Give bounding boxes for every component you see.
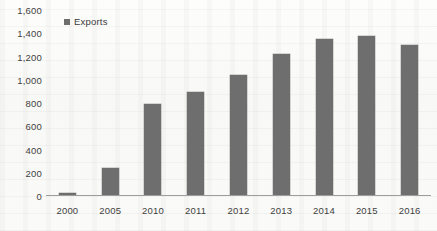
y-tick-label: 400 [26,144,42,155]
bar [102,168,119,195]
bar-slot [303,10,346,195]
bar [401,45,418,195]
y-tick-label: 800 [26,98,42,109]
bar-group [46,10,431,195]
bar-slot [217,10,260,195]
y-axis: 02004006008001,0001,2001,4001,600 [0,0,46,231]
y-tick-label: 1,200 [17,51,42,62]
y-tick-label: 1,400 [17,28,42,39]
y-tick-label: 600 [26,121,42,132]
x-tick-label: 2012 [217,205,260,219]
x-tick-label: 2000 [46,205,89,219]
bar-slot [132,10,175,195]
x-tick-label: 2016 [388,205,431,219]
x-tick-label: 2013 [260,205,303,219]
bar [144,104,161,195]
plot-area [46,10,431,196]
x-tick-label: 2010 [132,205,175,219]
x-axis-line [46,195,431,196]
bar [187,92,204,195]
bar-slot [174,10,217,195]
x-tick-label: 2005 [89,205,132,219]
bar-slot [46,10,89,195]
bar-chart: Exports 02004006008001,0001,2001,4001,60… [0,0,437,231]
bar [273,54,290,195]
y-tick-label: 1,000 [17,74,42,85]
y-tick-label: 0 [37,191,42,202]
bar [358,36,375,195]
x-axis: 200020052010201120122013201420152016 [46,205,431,219]
bar-slot [260,10,303,195]
x-tick-label: 2015 [345,205,388,219]
bar-slot [345,10,388,195]
x-tick-label: 2011 [174,205,217,219]
x-tick-label: 2014 [303,205,346,219]
bar-slot [89,10,132,195]
y-tick-label: 200 [26,167,42,178]
bar [230,75,247,195]
bar-slot [388,10,431,195]
bar [316,39,333,195]
y-tick-label: 1,600 [17,5,42,16]
